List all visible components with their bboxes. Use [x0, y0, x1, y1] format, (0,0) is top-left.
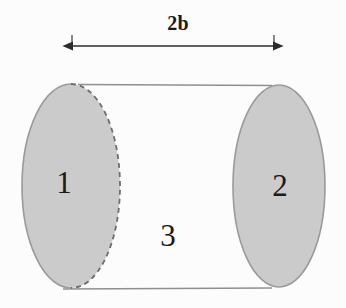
region-label-3: 3: [160, 218, 176, 253]
region-label-2: 2: [272, 168, 288, 203]
diagram-canvas: 2b 1 2 3: [0, 0, 346, 308]
dimension-label-2b: 2b: [167, 12, 189, 34]
contact-region-figure: 2b 1 2 3: [0, 0, 346, 308]
region-label-1: 1: [56, 165, 72, 200]
